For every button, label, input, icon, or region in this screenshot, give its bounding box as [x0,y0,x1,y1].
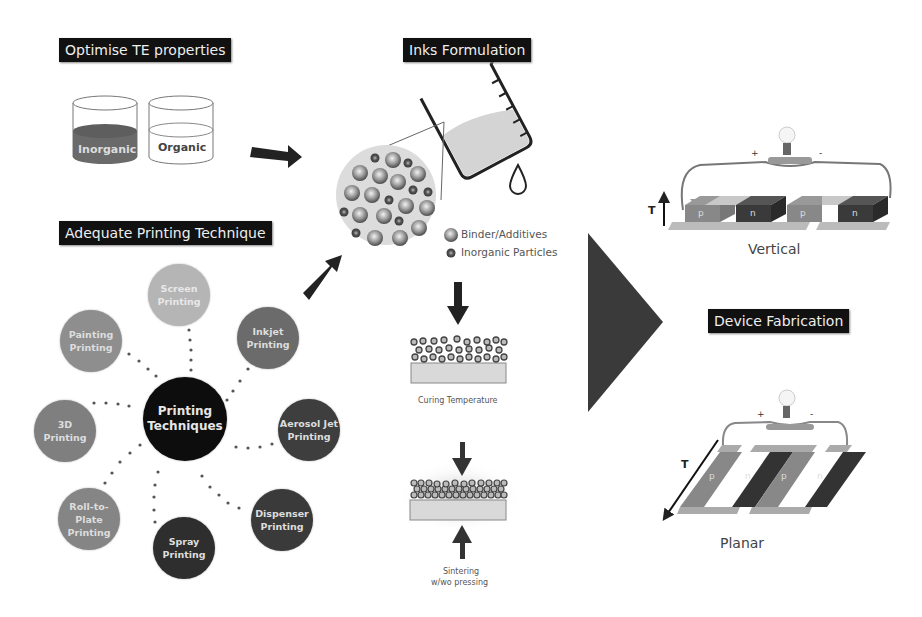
planar-axis-label: T [681,458,689,471]
planar-minus: - [810,409,813,419]
vertical-leg-p2: p [800,208,806,218]
process-arrow-triangle [588,233,663,412]
arrow-up-right-icon [303,255,342,300]
center-line1: Printing [158,404,212,418]
inorganic-label: Inorganic [78,143,136,156]
center-node-printing-techniques: PrintingTechniques [143,377,227,461]
vertical-axis-label: T [648,204,656,217]
drop-icon [510,165,526,194]
planar-device-icon [666,390,866,516]
planar-leg-p2: p [781,471,787,481]
curing-film-icon [411,336,507,383]
node-dispenser-printing: DispenserPrinting [251,489,313,551]
center-line2: Techniques [147,419,222,433]
sintering-label-2: w/wo pressing [431,578,488,587]
pouring-beaker-icon [419,56,539,181]
curing-label: Curing Temperature [418,396,498,405]
node-aerosol-jet-printing: Aerosol JetPrinting [278,399,340,461]
organic-label: Organic [158,141,206,154]
vertical-label: Vertical [748,241,800,257]
planar-plus: + [757,409,765,419]
vertical-leg-n1: n [750,208,756,218]
planar-leg-n2: n [817,471,823,481]
particle-legend-icon [447,249,456,258]
ink-particles-circle [336,145,436,246]
planar-leg-n1: n [745,471,751,481]
arrow-right-icon [250,145,302,168]
node-roll-to-plate-printing: Roll-to-PlatePrinting [58,488,120,550]
node-screen-printing: ScreenPrinting [148,264,210,326]
zoom-line [385,122,444,147]
vertical-minus: - [819,148,822,158]
sintering-label: Sintering [443,567,479,576]
planar-label: Planar [720,535,764,551]
node-inkjet-printing: InkjetPrinting [237,307,299,369]
device-title: Device Fabrication [708,309,849,333]
binder-legend-label: Binder/Additives [461,228,547,240]
inks-title: Inks Formulation [403,38,531,62]
particle-legend-label: Inorganic Particles [461,246,557,258]
node-3d-printing: 3DPrinting [34,400,96,462]
vertical-plus: + [751,148,759,158]
optimise-title: Optimise TE properties [59,38,231,62]
vertical-leg-p1: p [698,208,704,218]
binder-legend-icon [444,228,458,242]
planar-leg-p1: p [709,471,715,481]
node-painting-printing: PaintingPrinting [60,310,122,372]
node-spray-printing: SprayPrinting [153,517,215,579]
arrow-down-icon [447,282,469,325]
vertical-leg-n2: n [852,208,858,218]
printing-title: Adequate Printing Technique [59,221,272,245]
sintering-film-icon [397,442,521,559]
